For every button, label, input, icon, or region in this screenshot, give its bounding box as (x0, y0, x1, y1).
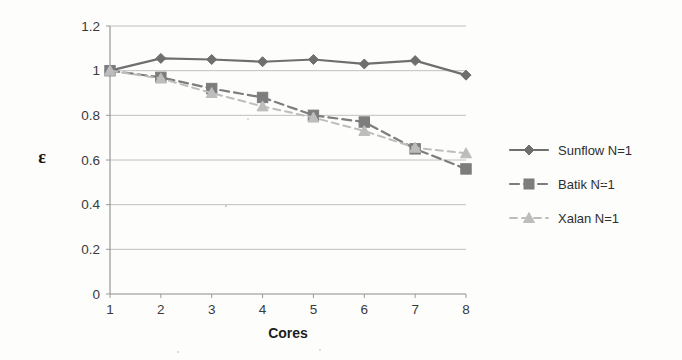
y-tick-label: 0.6 (81, 153, 100, 168)
x-tick-label: 5 (310, 302, 318, 317)
y-tick-label: 1 (92, 63, 100, 78)
x-tick-label: 7 (411, 302, 419, 317)
legend-item-batik-n-1[interactable]: Batik N=1 (510, 177, 615, 192)
x-tick-label: 4 (259, 302, 267, 317)
x-tick-label: 1 (106, 302, 114, 317)
y-tick-label: 0.8 (81, 108, 100, 123)
x-tick-label: 2 (157, 302, 165, 317)
y-axis-title: ε (38, 147, 46, 167)
chart-figure: 00.20.40.60.811.2 12345678 ε Cores Sunfl… (0, 0, 682, 360)
data-point-marker (461, 164, 471, 174)
square-marker-icon (524, 179, 534, 189)
legend-label: Xalan N=1 (558, 211, 619, 226)
legend-label: Sunflow N=1 (558, 143, 632, 158)
y-tick-label: 1.2 (81, 19, 100, 34)
x-tick-label: 8 (462, 302, 470, 317)
y-tick-label: 0.2 (81, 242, 100, 257)
y-tick-label: 0.4 (81, 197, 100, 212)
x-tick-label: 3 (208, 302, 216, 317)
chart-legend: Sunflow N=1Batik N=1Xalan N=1 (510, 143, 632, 226)
legend-label: Batik N=1 (558, 177, 615, 192)
chart-svg: 00.20.40.60.811.2 12345678 ε Cores Sunfl… (0, 0, 682, 360)
x-axis-title: Cores (268, 325, 308, 341)
y-tick-label: 0 (92, 287, 100, 302)
x-tick-label: 6 (361, 302, 369, 317)
